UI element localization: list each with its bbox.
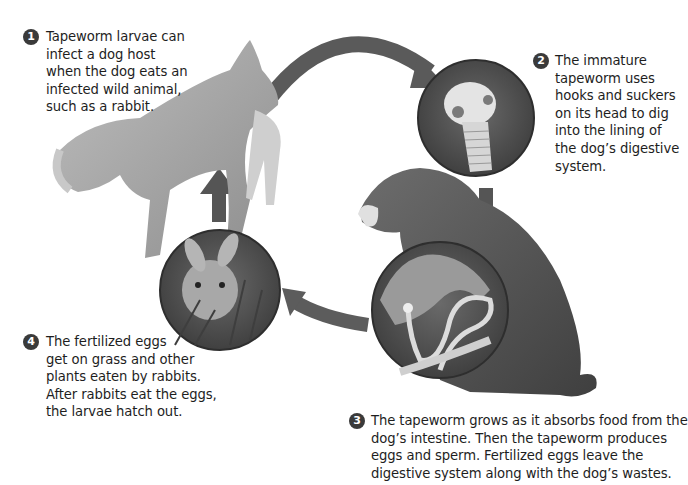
step-1-text: Tapeworm larvae can infect a dog host wh…	[46, 28, 188, 116]
step-3-text: The tapeworm grows as it absorbs food fr…	[371, 412, 688, 482]
step-4-text: The fertilized eggs get on grass and oth…	[46, 333, 217, 421]
step-number-badge: 2	[533, 53, 549, 69]
intestine-closeup	[372, 242, 508, 378]
tapeworm-head-closeup	[418, 60, 534, 176]
step-number-badge: 1	[23, 29, 39, 45]
tapeworm-life-cycle-diagram: 1 Tapeworm larvae can infect a dog host …	[0, 0, 688, 485]
step-number-badge: 4	[23, 334, 39, 350]
step-number-badge: 3	[349, 413, 365, 429]
rabbit-closeup	[160, 230, 280, 350]
arrow-3-to-4	[282, 288, 368, 325]
arrow-1-to-2	[268, 44, 448, 100]
step-2-text: The immature tapeworm uses hooks and suc…	[555, 52, 679, 175]
